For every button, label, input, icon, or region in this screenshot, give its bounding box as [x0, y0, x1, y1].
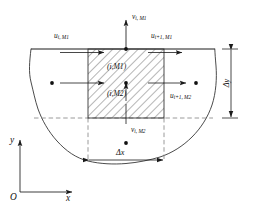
label-velocity-u-ip1-M2: ui+1, M2	[170, 92, 191, 101]
figure-container: vi, M1 ui, M1 ui+1, M1 (i,M1) (i,M2) ui+…	[0, 0, 256, 211]
node-dot-cell-center	[124, 81, 128, 85]
label-velocity-v-i-M2: vi, M2	[131, 126, 146, 135]
diagram-canvas	[0, 0, 256, 211]
label-dimension-dy: Δy	[223, 79, 231, 87]
node-dot-left	[50, 81, 54, 85]
label-cell-i-M1: (i,M1)	[107, 63, 126, 71]
node-dot-top-surface	[124, 47, 128, 51]
label-velocity-u-i-M1: ui, M1	[54, 32, 69, 41]
label-axis-origin: O	[10, 193, 17, 202]
label-velocity-v-i-M1: vi, M1	[132, 13, 147, 22]
node-dot-right	[194, 81, 198, 85]
label-axis-x: x	[66, 194, 70, 203]
label-velocity-u-ip1-M1: ui+1, M1	[151, 32, 172, 41]
node-dot-below	[124, 141, 128, 145]
label-axis-y: y	[10, 136, 14, 145]
label-cell-i-M2: (i,M2)	[107, 90, 126, 98]
label-dimension-dx: Δx	[116, 149, 124, 157]
